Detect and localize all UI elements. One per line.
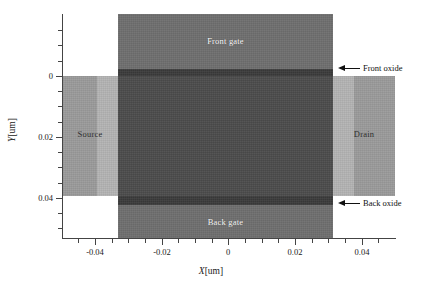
x-tick-minor: [195, 239, 196, 243]
y-tick-label: 0: [20, 71, 53, 81]
region-label-back-gate: Back gate: [118, 217, 333, 227]
y-tick-minor: [58, 122, 62, 123]
x-tick-major-0.04: [362, 239, 363, 245]
x-tick-label: -0.04: [86, 247, 104, 257]
callout-label-back-oxide: Back oxide: [363, 198, 401, 208]
x-tick-minor: [212, 239, 213, 243]
y-axis-label: Y[um]: [7, 100, 17, 160]
x-tick-minor: [112, 239, 113, 243]
region-front-oxide: [118, 69, 333, 76]
y-tick-major-0.02: [56, 137, 62, 138]
x-tick-minor: [278, 239, 279, 243]
y-tick-major-0.04: [56, 198, 62, 199]
x-tick-minor: [145, 239, 146, 243]
x-tick-minor: [378, 239, 379, 243]
x-tick-minor: [128, 239, 129, 243]
x-tick-major-0: [228, 239, 229, 245]
x-axis-label: X[um]: [0, 266, 422, 276]
x-tick-major--0.04: [95, 239, 96, 245]
arrow-left-icon: [338, 65, 360, 72]
x-tick-major-0.02: [295, 239, 296, 245]
region-channel: [118, 76, 333, 196]
x-axis-label-unit: [um]: [205, 266, 223, 276]
region-back-gate: Back gate: [118, 205, 333, 238]
y-tick-minor: [58, 106, 62, 107]
region-source: Source: [62, 76, 118, 196]
x-tick-minor: [312, 239, 313, 243]
y-tick-major-0: [56, 76, 62, 77]
x-tick-minor: [245, 239, 246, 243]
y-tick-minor: [58, 45, 62, 46]
y-tick-minor: [58, 228, 62, 229]
x-tick-minor: [178, 239, 179, 243]
y-tick-minor: [58, 213, 62, 214]
x-tick-major--0.02: [162, 239, 163, 245]
region-label-front-gate: Front gate: [118, 36, 333, 46]
y-tick-minor: [58, 30, 62, 31]
x-tick-label: 0.04: [355, 247, 370, 257]
y-tick-minor: [58, 91, 62, 92]
region-label-source: Source: [62, 129, 118, 139]
callout-front-oxide: Front oxide: [338, 63, 402, 73]
x-tick-minor: [345, 239, 346, 243]
arrow-left-icon: [338, 200, 360, 207]
y-tick-label: 0.02: [20, 132, 53, 142]
y-tick-minor: [58, 61, 62, 62]
region-front-gate: Front gate: [118, 14, 333, 69]
x-tick-label: -0.02: [153, 247, 171, 257]
y-tick-label: 0.04: [20, 193, 53, 203]
callout-back-oxide: Back oxide: [338, 198, 401, 208]
x-tick-minor: [78, 239, 79, 243]
x-tick-minor: [262, 239, 263, 243]
x-tick-label: 0: [226, 247, 230, 257]
y-tick-minor: [58, 152, 62, 153]
callout-label-front-oxide: Front oxide: [363, 63, 402, 73]
y-axis-spine: [62, 14, 63, 239]
y-tick-minor: [58, 167, 62, 168]
y-tick-minor: [58, 183, 62, 184]
y-axis-label-unit: [um]: [7, 118, 17, 136]
plot-area: Front gate Back gate Source Drain: [0, 0, 422, 291]
y-axis-label-var: Y: [7, 137, 17, 142]
region-back-oxide: [118, 196, 333, 205]
region-label-drain: Drain: [333, 129, 395, 139]
region-drain: Drain: [333, 76, 395, 196]
figure-container: Front gate Back gate Source Drain: [0, 0, 422, 291]
x-tick-label: 0.02: [288, 247, 303, 257]
x-tick-minor: [328, 239, 329, 243]
